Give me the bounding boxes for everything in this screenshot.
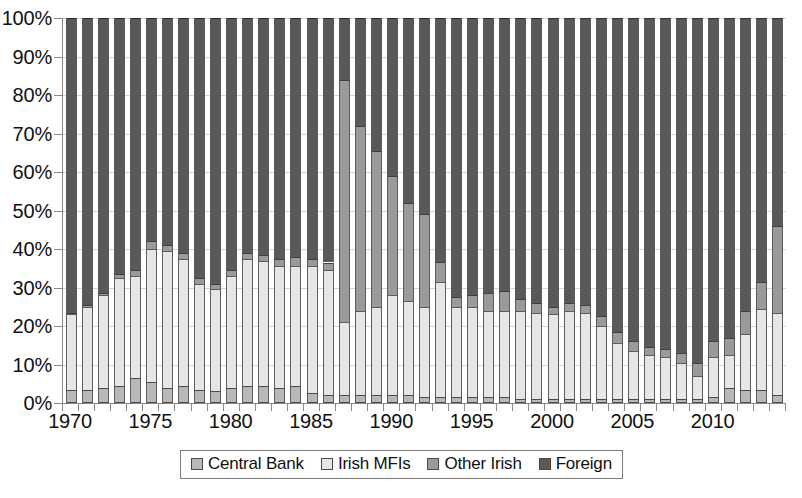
- bar-segment-cb: [403, 395, 414, 403]
- bar-1994: [451, 18, 462, 403]
- bar-segment-other: [628, 341, 639, 351]
- bar-1990: [387, 18, 398, 403]
- bar-2008: [676, 18, 687, 403]
- bar-1976: [162, 18, 173, 403]
- bar-segment-mfi: [403, 301, 414, 395]
- legend-item-mfi[interactable]: Irish MFIs: [321, 454, 411, 474]
- bar-2007: [660, 18, 671, 403]
- bar-2012: [740, 18, 751, 403]
- bar-segment-cb: [323, 395, 334, 403]
- bar-segment-cb: [307, 393, 318, 403]
- y-axis-tick-mark: [54, 326, 62, 327]
- bar-1972: [98, 18, 109, 403]
- bar-segment-foreign: [708, 18, 719, 341]
- bar-1992: [419, 18, 430, 403]
- bar-segment-foreign: [403, 18, 414, 203]
- y-tick-label: 50%: [13, 199, 52, 222]
- bar-segment-mfi: [130, 276, 141, 378]
- y-axis-tick-mark: [54, 172, 62, 173]
- bar-2014: [772, 18, 783, 403]
- bar-segment-mfi: [531, 313, 542, 400]
- bar-segment-cb: [724, 388, 735, 403]
- bar-segment-cb: [82, 390, 93, 403]
- bar-1991: [403, 18, 414, 403]
- bar-segment-mfi: [114, 278, 125, 386]
- bar-segment-other: [355, 126, 366, 311]
- bars-layer: [63, 18, 786, 403]
- bar-segment-mfi: [419, 307, 430, 397]
- bar-segment-other: [644, 347, 655, 355]
- legend-item-label: Foreign: [556, 454, 612, 474]
- bar-segment-cb: [146, 382, 157, 403]
- bar-segment-mfi: [515, 311, 526, 400]
- bar-segment-mfi: [178, 259, 189, 386]
- bar-1998: [515, 18, 526, 403]
- bar-1981: [242, 18, 253, 403]
- bar-segment-other: [290, 257, 301, 267]
- y-tick-label: 90%: [13, 45, 52, 68]
- bar-segment-mfi: [226, 276, 237, 388]
- bar-segment-cb: [756, 390, 767, 403]
- bar-2003: [596, 18, 607, 403]
- bar-segment-other: [548, 307, 559, 315]
- bar-segment-cb: [98, 388, 109, 403]
- bar-segment-mfi: [628, 351, 639, 399]
- bar-segment-cb: [339, 395, 350, 403]
- bar-segment-other: [146, 241, 157, 249]
- bar-segment-foreign: [274, 18, 285, 259]
- bar-segment-mfi: [242, 259, 253, 386]
- bar-segment-other: [740, 311, 751, 334]
- bar-segment-foreign: [435, 18, 446, 262]
- bar-segment-mfi: [740, 334, 751, 390]
- bar-segment-mfi: [660, 357, 671, 399]
- bar-1993: [435, 18, 446, 403]
- bar-segment-mfi: [274, 266, 285, 387]
- bar-segment-mfi: [66, 314, 77, 389]
- bar-2002: [580, 18, 591, 403]
- x-tick-label: 1970: [48, 410, 92, 433]
- legend-item-other[interactable]: Other Irish: [427, 454, 521, 474]
- bar-segment-other: [226, 270, 237, 276]
- bar-segment-cb: [387, 395, 398, 403]
- legend-swatch-icon: [191, 458, 203, 470]
- bar-segment-other: [692, 363, 703, 376]
- bar-segment-foreign: [676, 18, 687, 353]
- bar-segment-cb: [178, 386, 189, 403]
- bar-segment-other: [242, 253, 253, 259]
- stacked-bar-chart: 0%10%20%30%40%50%60%70%80%90%100% 197019…: [0, 0, 802, 498]
- bar-segment-foreign: [531, 18, 542, 303]
- bar-segment-foreign: [355, 18, 366, 126]
- bar-segment-other: [274, 259, 285, 267]
- legend-item-cb[interactable]: Central Bank: [191, 454, 304, 474]
- bar-segment-other: [435, 262, 446, 281]
- bar-segment-mfi: [387, 295, 398, 395]
- bar-segment-other: [403, 203, 414, 301]
- y-axis-labels: 0%10%20%30%40%50%60%70%80%90%100%: [0, 0, 56, 440]
- y-tick-label: 40%: [13, 238, 52, 261]
- bar-segment-foreign: [467, 18, 478, 295]
- bar-segment-mfi: [194, 284, 205, 390]
- chart-legend: Central BankIrish MFIsOther IrishForeign: [180, 450, 623, 479]
- bar-segment-foreign: [644, 18, 655, 347]
- bar-1974: [130, 18, 141, 403]
- legend-item-foreign[interactable]: Foreign: [539, 454, 612, 474]
- bar-2013: [756, 18, 767, 403]
- bar-segment-mfi: [323, 270, 334, 395]
- bar-segment-foreign: [580, 18, 591, 305]
- bar-segment-mfi: [564, 311, 575, 400]
- bar-segment-foreign: [628, 18, 639, 341]
- bar-segment-foreign: [146, 18, 157, 241]
- bar-1999: [531, 18, 542, 403]
- bar-segment-other: [660, 349, 671, 357]
- bar-2000: [548, 18, 559, 403]
- bar-segment-cb: [740, 390, 751, 403]
- bar-segment-other: [114, 274, 125, 278]
- bar-1997: [499, 18, 510, 403]
- bar-segment-foreign: [387, 18, 398, 176]
- bar-segment-other: [178, 253, 189, 259]
- bar-segment-mfi: [258, 261, 269, 386]
- bar-segment-foreign: [194, 18, 205, 278]
- bar-segment-cb: [355, 395, 366, 403]
- bar-2011: [724, 18, 735, 403]
- bar-segment-other: [194, 278, 205, 284]
